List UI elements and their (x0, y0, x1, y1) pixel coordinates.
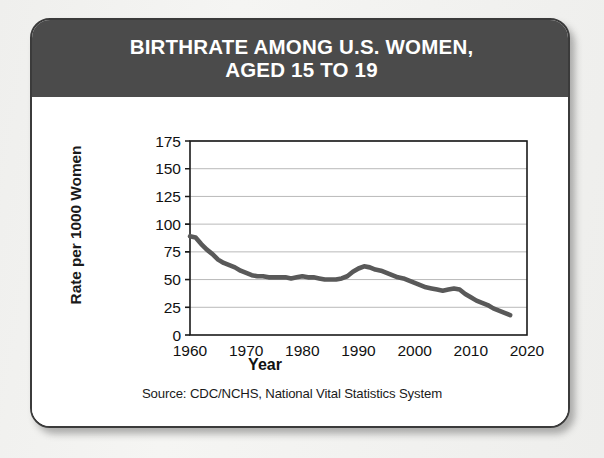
y-tick-label-50: 50 (164, 271, 182, 288)
chart-title: BIRTHRATE AMONG U.S. WOMEN, AGED 15 TO 1… (110, 35, 494, 82)
x-tick-label-2020: 2020 (510, 342, 545, 358)
data-line-group (190, 236, 510, 315)
source-attribution: Source: CDC/NCHS, National Vital Statist… (32, 386, 552, 401)
chart-card: BIRTHRATE AMONG U.S. WOMEN, AGED 15 TO 1… (30, 18, 570, 428)
plot-frame-group (190, 141, 527, 335)
x-axis-title: Year (32, 356, 498, 374)
chart-body: Rate per 1000 Women 0255075100125150175 … (32, 98, 570, 428)
y-tick-label-125: 125 (155, 188, 181, 205)
y-tick-labels-group: 0255075100125150175 (155, 133, 190, 344)
gridlines-group (190, 141, 527, 307)
chart-header-bar: BIRTHRATE AMONG U.S. WOMEN, AGED 15 TO 1… (31, 19, 570, 97)
y-tick-label-100: 100 (155, 216, 181, 233)
series-line-birthrate (190, 236, 510, 315)
y-tick-label-175: 175 (155, 133, 181, 150)
y-tick-label-150: 150 (155, 160, 181, 177)
line-chart-plot: 0255075100125150175 19601970198019902000… (32, 98, 570, 358)
y-tick-label-25: 25 (164, 299, 181, 316)
plot-frame (190, 141, 527, 335)
y-tick-label-75: 75 (164, 243, 181, 260)
